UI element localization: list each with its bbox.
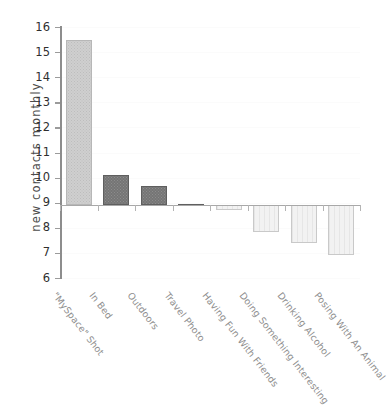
x-axis-tick (360, 205, 361, 211)
x-axis-tick (173, 205, 174, 211)
x-axis-tick (285, 205, 286, 211)
x-axis-tick (60, 205, 61, 211)
bar (141, 186, 167, 205)
x-axis-label: Outdoors (125, 290, 161, 332)
y-axis-tick-label: 14 (0, 70, 50, 84)
y-axis-tick-label: 10 (0, 170, 50, 184)
y-axis-spine (60, 26, 62, 279)
y-axis-tick-label: 12 (0, 120, 50, 134)
x-axis-tick (248, 205, 249, 211)
x-axis-label: Having Fun With Friends (200, 290, 281, 389)
y-axis-tick-label: 11 (0, 145, 50, 159)
x-axis-label: Posing With An Animal (313, 290, 388, 382)
gridline (61, 77, 360, 78)
gridline (61, 253, 360, 254)
y-axis-tick-label: 16 (0, 20, 50, 34)
x-axis-tick (135, 205, 136, 211)
gridline (61, 27, 360, 28)
bar (66, 40, 92, 206)
y-axis-tick-label: 13 (0, 95, 50, 109)
y-axis-tick-label: 7 (0, 245, 50, 259)
bar (253, 205, 279, 231)
bar (103, 175, 129, 205)
y-axis-tick-label: 6 (0, 271, 50, 285)
gridline (61, 127, 360, 128)
gridline (61, 153, 360, 154)
gridline (61, 102, 360, 103)
gridline (61, 52, 360, 53)
gridline (61, 278, 360, 279)
x-axis-tick (323, 205, 324, 211)
y-axis-tick-label: 9 (0, 195, 50, 209)
bar (291, 205, 317, 243)
bar (328, 205, 354, 255)
x-axis-label: In Bed (88, 290, 116, 321)
x-axis-tick (210, 205, 211, 211)
y-axis-tick-label: 15 (0, 45, 50, 59)
x-axis-tick (98, 205, 99, 211)
y-axis-tick-label: 8 (0, 220, 50, 234)
